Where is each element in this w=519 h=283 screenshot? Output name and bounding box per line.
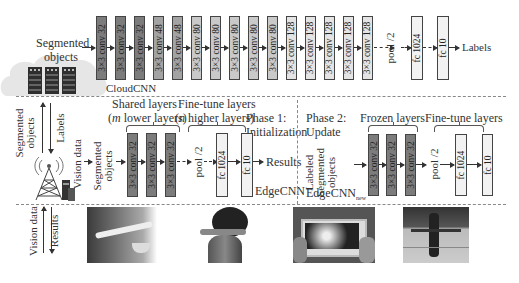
vision-data-up-arrow (43, 207, 44, 253)
device-results-label: Results (48, 211, 60, 251)
update-fc10: fc 10 (482, 134, 493, 196)
update-layer-1: 3×3 conv 32 (368, 134, 379, 196)
cloudcnn-label: CloudCNN (106, 82, 156, 94)
cloud-layer-8: 3×3 conv 80 (229, 16, 240, 80)
layer-arrow (240, 47, 247, 48)
update-layer-3: 3×3 conv 32 (405, 134, 416, 196)
upload-arrow (42, 103, 43, 153)
edge-input-label: Segmentedobjects (92, 141, 114, 191)
layer-arrow (379, 164, 386, 165)
edge-output-arrow (253, 161, 263, 162)
server-rack-icon (28, 67, 78, 94)
edge-layer-2: 3×3 conv 32 (146, 133, 157, 197)
finetune-layers-subtitle: (n higher layers) (175, 111, 254, 126)
cloud-pool-label: pool /2 (384, 28, 396, 68)
edgecnn-new-label: EdgeCNNnew (306, 186, 366, 201)
layer-arrow (221, 47, 228, 48)
edge-layer-1: 3×3 conv 32 (127, 133, 138, 197)
cloud-fc1024: fc 1024 (411, 16, 423, 80)
cloud-output-arrow (449, 47, 459, 48)
update-pool-arrow-in (416, 164, 426, 165)
edge-fc-arrow (228, 161, 240, 162)
cloud-layer-9: 3×3 conv 80 (248, 16, 259, 80)
update-layer-2: 3×3 conv 32 (386, 134, 397, 196)
cloud-input-label-2: objects (44, 50, 78, 65)
cloud-pool-arrow-out (401, 47, 411, 48)
layer-arrow (107, 47, 114, 48)
update-input-arrow (354, 164, 366, 165)
edge-input-arrow (116, 161, 125, 162)
smart-glasses-photo (87, 207, 157, 263)
layer-arrow (278, 47, 285, 48)
cloud-layer-7: 3×3 conv 80 (210, 16, 221, 80)
ar-headset-photo (196, 207, 252, 263)
link-segmented-objects-label: Segmentedobjects (14, 108, 36, 158)
link-labels-label: Labels (54, 103, 66, 153)
edge-pool-label: pool /2 (192, 142, 204, 182)
layer-arrow (354, 47, 361, 48)
layer-arrow (183, 47, 190, 48)
edge-layer-3: 3×3 conv 32 (165, 133, 176, 197)
update-pool-arrow-out (440, 164, 454, 165)
frozen-layers-brace (368, 125, 418, 132)
shared-layers-brace (126, 125, 180, 132)
layer-arrow (259, 47, 266, 48)
cloud-input-label-1: Segmented (36, 36, 89, 51)
cloud-layer-13: 3×3 conv 128 (324, 16, 335, 80)
phase-divider (297, 100, 298, 204)
update-pool-label: pool /2 (428, 144, 440, 184)
tier-divider-edge-device (16, 204, 506, 205)
finetune-layers-brace (188, 125, 246, 132)
update-fc1024: fc 1024 (455, 134, 467, 196)
cloud-layer-3: 3×3 conv 32 (134, 16, 145, 80)
layer-arrow (335, 47, 342, 48)
vision-data-label: Vision data (71, 139, 83, 189)
cloud-layer-12: 3×3 conv 128 (305, 16, 316, 80)
layer-arrow (297, 47, 304, 48)
phase2-label-2: Update (306, 125, 341, 140)
download-arrow (50, 103, 51, 153)
cloud-layer-11: 3×3 conv 128 (286, 16, 297, 80)
edge-fc10: fc 10 (241, 133, 253, 197)
cloud-layer-4: 3×3 conv 48 (153, 16, 164, 80)
surveillance-camera-photo (403, 207, 469, 263)
edge-pool-arrow-in (177, 161, 191, 162)
layer-arrow (316, 47, 323, 48)
cloud-output-label: Labels (462, 41, 491, 53)
smartphone-ar-photo (293, 207, 375, 263)
layer-arrow (397, 164, 404, 165)
shared-layers-title: Shared layers (112, 97, 177, 112)
layer-arrow (202, 47, 209, 48)
phase1-label-2: Initialization (246, 125, 307, 140)
cloud-layer-2: 3×3 conv 32 (115, 16, 126, 80)
cloud-layer-15: 3×3 conv 128 (362, 16, 373, 80)
cloud-layer-10: 3×3 conv 80 (267, 16, 278, 80)
finetune-layers-title: Fine-tune layers (178, 97, 256, 112)
layer-arrow (164, 47, 171, 48)
update-finetune-title: Fine-tune layers (425, 111, 503, 126)
cloud-input-arrow (82, 47, 95, 48)
layer-arrow (126, 47, 133, 48)
device-vision-data-label: Vision data (27, 206, 39, 256)
phase2-label-1: Phase 2: (306, 111, 346, 126)
cloud-layer-1: 3×3 conv 32 (96, 16, 107, 80)
update-fc-arrow (467, 164, 481, 165)
phase1-label-1: Phase 1: (246, 111, 286, 126)
layer-arrow (157, 161, 164, 162)
cloud-layer-5: 3×3 conv 48 (172, 16, 183, 80)
edge-fc1024: fc 1024 (216, 133, 228, 197)
cloud-fc10: fc 10 (437, 16, 449, 80)
layer-arrow (145, 47, 152, 48)
cloud-fc-arrow (423, 47, 437, 48)
cloud-layer-14: 3×3 conv 128 (343, 16, 354, 80)
cloud-layer-6: 3×3 conv 80 (191, 16, 202, 80)
layer-arrow (138, 161, 145, 162)
tier-divider-cloud-edge (16, 96, 506, 97)
update-finetune-brace (434, 125, 484, 132)
